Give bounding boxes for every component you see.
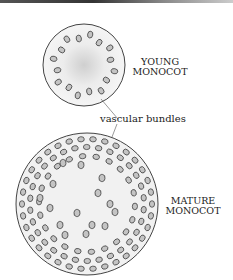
vascular-bundle	[27, 207, 33, 214]
vascular-bundle	[141, 194, 147, 201]
vascular-bundle	[77, 266, 84, 272]
vascular-bundle	[19, 201, 24, 208]
young-monocot-section	[43, 24, 125, 106]
vascular-bundle	[141, 206, 147, 213]
vascular-bundle	[79, 153, 86, 159]
mature-label-2: MONOCOT	[165, 205, 221, 216]
vascular-bundle	[89, 266, 96, 272]
vascular-bundle	[77, 136, 84, 142]
monocot-stem-diagram: YOUNG MONOCOT vascular bundles MATURE MO…	[0, 0, 233, 280]
young-label-2: MONOCOT	[132, 66, 188, 77]
callout-line-mature	[112, 124, 117, 137]
diagram-canvas: YOUNG MONOCOT vascular bundles MATURE MO…	[0, 0, 233, 280]
vascular-bundles-label: vascular bundles	[99, 113, 186, 124]
mature-monocot-section	[16, 133, 158, 275]
vascular-bundle	[84, 258, 91, 263]
vascular-bundle	[149, 201, 154, 208]
vascular-bundle	[132, 203, 138, 210]
vascular-bundle	[83, 144, 90, 149]
vascular-bundle	[88, 249, 95, 255]
vascular-bundle	[89, 136, 96, 142]
vascular-bundle	[27, 195, 33, 202]
